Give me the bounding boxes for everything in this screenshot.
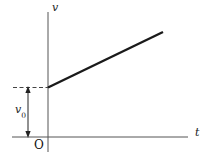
figure-canvas — [0, 0, 209, 164]
velocity-time-figure: v t O v0 — [0, 0, 209, 164]
v0-measure-arrow — [25, 86, 30, 138]
origin-label: O — [34, 139, 44, 151]
x-axis-label: t — [195, 127, 199, 138]
initial-velocity-label: v0 — [15, 104, 26, 118]
initial-velocity-subscript: 0 — [21, 111, 26, 120]
y-axis-label: v — [52, 2, 58, 13]
velocity-line — [48, 32, 163, 88]
